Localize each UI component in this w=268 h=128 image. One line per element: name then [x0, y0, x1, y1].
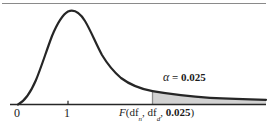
density-curve — [18, 11, 266, 105]
distribution-plot — [0, 0, 268, 128]
f-distribution-figure: 0 1 α = 0.025 F(dfn, dfd, 0.025) — [0, 0, 268, 128]
